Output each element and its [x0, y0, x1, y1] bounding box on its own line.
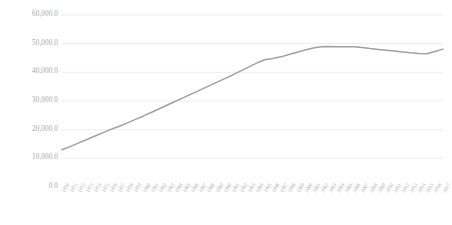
gridline-group	[62, 15, 443, 187]
y-axis-tick-label: 50,000.0	[2, 40, 58, 47]
line-chart: 60,000.050,000.040,000.030,000.020,000.0…	[0, 0, 452, 225]
y-axis-tick-labels: 60,000.050,000.040,000.030,000.020,000.0…	[0, 0, 58, 225]
y-axis-tick-label: 0.0	[2, 183, 58, 190]
y-axis-tick-label: 40,000.0	[2, 68, 58, 75]
series-line-series-1	[62, 47, 443, 150]
y-axis-tick-label: 60,000.0	[2, 11, 58, 18]
plot-area	[0, 0, 452, 225]
y-axis-tick-label: 10,000.0	[2, 154, 58, 161]
y-axis-tick-label: 20,000.0	[2, 126, 58, 133]
y-axis-tick-label: 30,000.0	[2, 97, 58, 104]
